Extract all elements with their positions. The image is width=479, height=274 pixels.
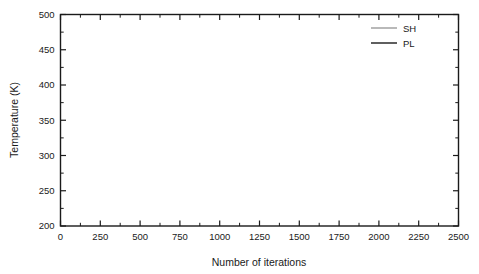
- y-tick-label: 200: [39, 220, 55, 231]
- legend-label-pl: PL: [403, 38, 415, 49]
- legend-label-sh: SH: [403, 23, 416, 34]
- x-tick-label: 2500: [448, 231, 469, 242]
- y-tick-label: 300: [39, 150, 55, 161]
- y-axis-title: Temperature (K): [8, 82, 20, 158]
- x-tick-label: 2000: [368, 231, 389, 242]
- x-tick-label: 2250: [408, 231, 429, 242]
- x-tick-label: 1000: [209, 231, 230, 242]
- x-tick-label: 250: [92, 231, 108, 242]
- y-tick-label: 250: [39, 185, 55, 196]
- y-tick-label: 350: [39, 115, 55, 126]
- x-tick-label: 0: [58, 231, 63, 242]
- x-tick-label: 750: [172, 231, 188, 242]
- y-tick-label: 450: [39, 44, 55, 55]
- x-tick-label: 1250: [249, 231, 270, 242]
- x-tick-label: 1500: [289, 231, 310, 242]
- y-tick-label: 400: [39, 79, 55, 90]
- chart-figure: 200250300350400450500 025050075010001250…: [0, 0, 479, 274]
- x-tick-label: 1750: [329, 231, 350, 242]
- y-tick-label: 500: [39, 9, 55, 20]
- temperature-vs-iterations-chart: 200250300350400450500 025050075010001250…: [0, 0, 479, 274]
- x-tick-label: 500: [132, 231, 148, 242]
- x-axis-title: Number of iterations: [212, 256, 307, 268]
